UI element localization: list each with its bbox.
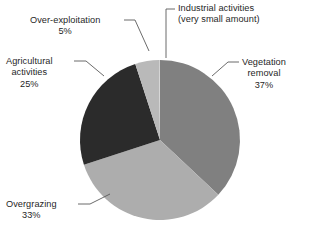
pie-label-industrial-activities-name: Industrial activities	[178, 3, 254, 13]
pie-label-vegetation-removal-value: 37%	[242, 80, 286, 91]
leader-line-over-exploitation	[124, 20, 149, 51]
pie-label-over-exploitation[interactable]: Over-exploitation 5%	[30, 15, 100, 38]
pie-label-agricultural-activities-value: 25%	[6, 79, 53, 90]
leader-line-agricultural-activities	[74, 61, 104, 76]
pie-label-overgrazing-name: Overgrazing	[6, 199, 57, 209]
pie-label-vegetation-removal[interactable]: Vegetation removal 37%	[242, 57, 286, 91]
pie-label-vegetation-removal-name2: removal	[242, 68, 286, 79]
pie-chart-figure: Over-exploitation 5% Industrial activiti…	[0, 0, 313, 237]
pie-label-agricultural-activities-name2: activities	[6, 67, 53, 78]
pie-slices	[80, 60, 240, 220]
pie-label-agricultural-activities-name1: Agricultural	[6, 56, 53, 66]
pie-label-industrial-activities[interactable]: Industrial activities (very small amount…	[178, 3, 260, 26]
pie-label-over-exploitation-name: Over-exploitation	[30, 15, 100, 25]
pie-label-vegetation-removal-name1: Vegetation	[242, 57, 286, 67]
pie-label-industrial-activities-value: (very small amount)	[178, 14, 260, 25]
pie-label-overgrazing[interactable]: Overgrazing 33%	[6, 199, 57, 222]
leader-line-vegetation-removal	[212, 62, 239, 76]
pie-label-overgrazing-value: 33%	[6, 210, 57, 221]
leader-line-industrial-activities	[166, 9, 175, 58]
pie-label-over-exploitation-value: 5%	[30, 26, 100, 37]
pie-label-agricultural-activities[interactable]: Agricultural activities 25%	[6, 56, 53, 90]
